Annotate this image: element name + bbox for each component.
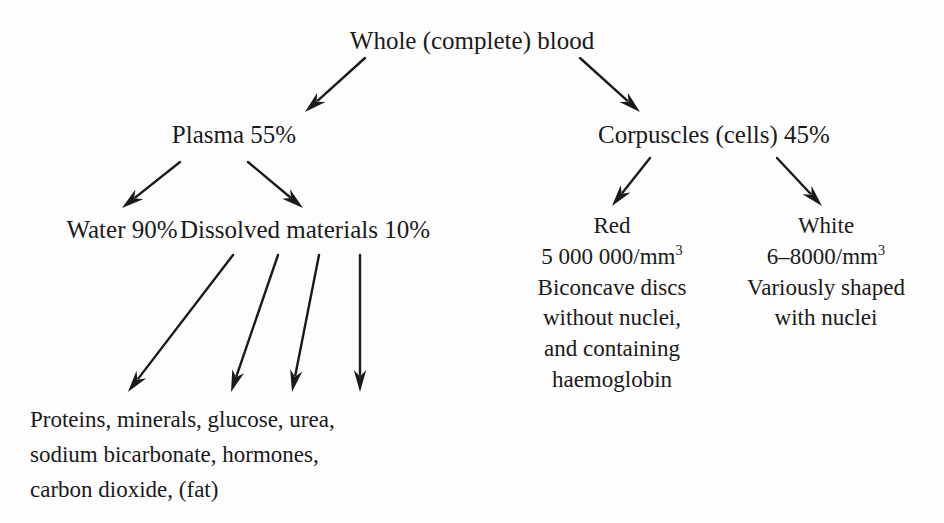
node-white-corpuscles: White 6–8000/mm3 Variously shaped with n…	[711, 211, 941, 334]
dissolved-to-contents-1	[128, 255, 233, 392]
node-white-line2: with nuclei	[711, 303, 941, 334]
node-white-count: 6–8000/mm3	[711, 242, 941, 273]
node-red-line3: and containing	[497, 334, 727, 365]
node-dissolved-materials-label: Dissolved materials 10%	[180, 216, 430, 243]
node-whole-blood-label: Whole (complete) blood	[350, 27, 594, 54]
node-dissolved-contents-line1: Proteins, minerals, glucose, urea,	[30, 403, 490, 438]
node-dissolved-materials: Dissolved materials 10%	[180, 213, 430, 247]
node-white-count-exponent: 3	[878, 242, 885, 258]
node-corpuscles-label: Corpuscles (cells) 45%	[598, 121, 830, 148]
node-red-title: Red	[497, 211, 727, 242]
node-red-count-value: 5 000 000/mm	[541, 244, 675, 269]
plasma-to-dissolved	[248, 162, 303, 208]
root-to-corpuscles	[580, 58, 640, 112]
dissolved-to-contents-4	[354, 255, 366, 392]
node-red-line2: without nuclei,	[497, 303, 727, 334]
node-corpuscles: Corpuscles (cells) 45%	[598, 118, 830, 152]
node-plasma: Plasma 55%	[172, 118, 296, 152]
node-dissolved-contents-line2: sodium bicarbonate, hormones,	[30, 438, 490, 473]
node-whole-blood: Whole (complete) blood	[350, 24, 594, 58]
node-white-line1: Variously shaped	[711, 273, 941, 304]
node-dissolved-contents: Proteins, minerals, glucose, urea, sodiu…	[30, 403, 490, 508]
node-plasma-label: Plasma 55%	[172, 121, 296, 148]
dissolved-to-contents-2	[231, 255, 278, 392]
node-white-title: White	[711, 211, 941, 242]
corpuscles-to-red	[612, 158, 650, 206]
plasma-to-water	[122, 162, 180, 208]
node-water-label: Water 90%	[66, 216, 177, 243]
root-to-plasma	[305, 58, 365, 112]
node-white-count-value: 6–8000/mm	[767, 244, 878, 269]
node-water: Water 90%	[66, 213, 177, 247]
node-red-line4: haemoglobin	[497, 365, 727, 396]
blood-composition-diagram: Whole (complete) blood Plasma 55% Corpus…	[0, 0, 944, 523]
node-red-count: 5 000 000/mm3	[497, 242, 727, 273]
corpuscles-to-white	[777, 158, 822, 206]
dissolved-to-contents-3	[290, 255, 319, 392]
node-red-corpuscles: Red 5 000 000/mm3 Biconcave discs withou…	[497, 211, 727, 396]
node-red-line1: Biconcave discs	[497, 273, 727, 304]
node-dissolved-contents-line3: carbon dioxide, (fat)	[30, 473, 490, 508]
node-red-count-exponent: 3	[676, 242, 683, 258]
